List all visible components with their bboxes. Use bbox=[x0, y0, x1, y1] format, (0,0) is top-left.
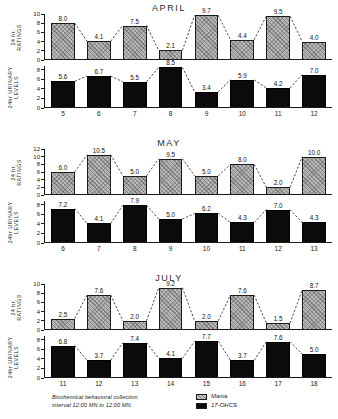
bar-slot: 8.7 bbox=[296, 284, 332, 330]
ohcs-bar: 4.3 bbox=[230, 222, 254, 243]
bar-value-label: 4.1 bbox=[166, 350, 175, 357]
bar-group-urinary: 5.66.75.58.53.45.94.27.0 bbox=[45, 66, 332, 108]
bar-value-label: 7.0 bbox=[310, 67, 319, 74]
y-axis-urinary-2: 02468 bbox=[22, 336, 44, 378]
bar-value-label: 6.2 bbox=[202, 205, 211, 212]
bar-value-label: 5.0 bbox=[202, 168, 211, 175]
y-tick-label: 8 bbox=[37, 20, 40, 26]
legend-label: 17-OHCS bbox=[211, 401, 237, 410]
x-axis-day-label: 6 bbox=[81, 108, 117, 119]
mania-bar: 8.0 bbox=[230, 164, 254, 195]
bar-value-label: 6.7 bbox=[94, 68, 103, 75]
ratings-chart-0: 24 hr.RATINGS02468108.04.17.52.19.74.49.… bbox=[0, 14, 338, 60]
mania-bar: 9.2 bbox=[159, 288, 183, 330]
y-tick-label: 0 bbox=[37, 240, 40, 246]
ratings-axis-title-text: 24 hr.RATINGS bbox=[10, 294, 23, 321]
y-tick-label: 6 bbox=[37, 169, 40, 175]
y-tick-label: 4 bbox=[37, 308, 40, 314]
y-tick-label: 2 bbox=[37, 318, 40, 324]
bar-slot: 7.9 bbox=[117, 201, 153, 243]
bar-slot: 1.5 bbox=[260, 284, 296, 330]
bar-slot: 3.7 bbox=[224, 336, 260, 378]
ohcs-bar: 3.7 bbox=[87, 360, 111, 378]
bar-value-label: 7.7 bbox=[202, 333, 211, 340]
bar-value-label: 7.9 bbox=[130, 197, 139, 204]
mania-bar: 5.0 bbox=[195, 176, 219, 195]
month-panel-april: APRIL24 hr.RATINGS02468108.04.17.52.19.7… bbox=[0, 2, 338, 119]
ohcs-bar: 7.7 bbox=[195, 341, 219, 378]
bar-slot: 4.1 bbox=[81, 14, 117, 60]
bar-slot: 4.3 bbox=[296, 201, 332, 243]
urinary-axis-title: 24hr URINARYLEVELS bbox=[4, 201, 24, 243]
ohcs-bar: 3.4 bbox=[195, 92, 219, 108]
bar-slot: 2.5 bbox=[45, 284, 81, 330]
bar-value-label: 5.6 bbox=[59, 73, 68, 80]
urinary-axis-title-text: 24hr URINARYLEVELS bbox=[8, 66, 21, 108]
bar-slot: 6.8 bbox=[45, 336, 81, 378]
month-title: APRIL bbox=[0, 2, 338, 14]
bar-value-label: 7.6 bbox=[274, 334, 283, 341]
ohcs-bar: 6.7 bbox=[87, 76, 111, 108]
mania-bar: 5.0 bbox=[123, 176, 147, 195]
ohcs-bar: 4.2 bbox=[266, 88, 290, 108]
mania-bar: 4.4 bbox=[230, 40, 254, 60]
y-tick-label: 8 bbox=[37, 202, 40, 208]
mania-swatch-icon bbox=[196, 394, 207, 400]
ratings-chart-1: 24 hr.RATINGS0246810126.010.55.09.55.08.… bbox=[0, 149, 338, 195]
y-tick-label: 4 bbox=[37, 176, 40, 182]
y-axis-urinary-1: 02468 bbox=[22, 201, 44, 243]
plot-urinary-1: 7.24.17.95.06.24.37.04.3 bbox=[45, 201, 332, 243]
bar-value-label: 7.6 bbox=[238, 287, 247, 294]
bar-slot: 7.6 bbox=[81, 284, 117, 330]
x-axis-day-label: 7 bbox=[117, 108, 153, 119]
bar-slot: 5.0 bbox=[296, 336, 332, 378]
x-axis-day-labels-0: 56789101112 bbox=[45, 108, 332, 119]
y-tick-label: 4 bbox=[37, 38, 40, 44]
bar-value-label: 1.5 bbox=[274, 315, 283, 322]
mania-bar: 10.0 bbox=[302, 157, 326, 195]
bar-value-label: 8.5 bbox=[166, 59, 175, 66]
y-tick-label: 2 bbox=[37, 48, 40, 54]
bar-value-label: 5.0 bbox=[166, 211, 175, 218]
bar-slot: 8.0 bbox=[45, 14, 81, 60]
y-tick-label: 10 bbox=[33, 281, 40, 287]
bar-group-ratings: 6.010.55.09.55.08.02.010.0 bbox=[45, 149, 332, 195]
y-tick-label: 2 bbox=[37, 230, 40, 236]
bar-slot: 5.9 bbox=[224, 66, 260, 108]
bar-slot: 7.6 bbox=[224, 284, 260, 330]
ohcs-bar: 6.8 bbox=[51, 346, 75, 378]
bar-value-label: 4.2 bbox=[274, 80, 283, 87]
bar-slot: 4.1 bbox=[81, 201, 117, 243]
bar-value-label: 4.1 bbox=[94, 33, 103, 40]
bar-value-label: 7.5 bbox=[130, 18, 139, 25]
baseline-ratings-1 bbox=[45, 194, 332, 195]
bar-value-label: 10.5 bbox=[93, 147, 105, 154]
bar-slot: 9.7 bbox=[189, 14, 225, 60]
bar-slot: 3.4 bbox=[189, 66, 225, 108]
bar-slot: 7.0 bbox=[296, 66, 332, 108]
ohcs-bar: 6.2 bbox=[195, 213, 219, 243]
x-axis-day-label: 12 bbox=[296, 108, 332, 119]
bar-slot: 4.2 bbox=[260, 66, 296, 108]
bar-value-label: 9.5 bbox=[166, 151, 175, 158]
bar-slot: 9.5 bbox=[260, 14, 296, 60]
legend-item: Mania bbox=[196, 392, 237, 401]
y-tick-label: 8 bbox=[37, 67, 40, 73]
y-tick-label: 4 bbox=[37, 221, 40, 227]
bar-value-label: 8.0 bbox=[59, 15, 68, 22]
month-panel-may: MAY24 hr.RATINGS0246810126.010.55.09.55.… bbox=[0, 137, 338, 254]
figure-legend: Mania17-OHCS bbox=[196, 392, 237, 410]
bar-slot: 5.5 bbox=[117, 66, 153, 108]
bar-value-label: 4.3 bbox=[310, 214, 319, 221]
mania-bar: 10.5 bbox=[87, 155, 111, 195]
mania-bar: 9.5 bbox=[266, 16, 290, 60]
bar-slot: 10.5 bbox=[81, 149, 117, 195]
x-axis-day-label: 15 bbox=[189, 378, 225, 389]
ohcs-bar: 7.2 bbox=[51, 209, 75, 243]
figure-sheet: APRIL24 hr.RATINGS02468108.04.17.52.19.7… bbox=[0, 0, 338, 419]
mania-bar: 7.6 bbox=[87, 295, 111, 330]
bar-slot: 7.7 bbox=[189, 336, 225, 378]
bar-group-urinary: 6.83.77.44.17.73.77.65.0 bbox=[45, 336, 332, 378]
y-tick-label: 8 bbox=[37, 337, 40, 343]
x-axis-day-label: 10 bbox=[189, 243, 225, 254]
